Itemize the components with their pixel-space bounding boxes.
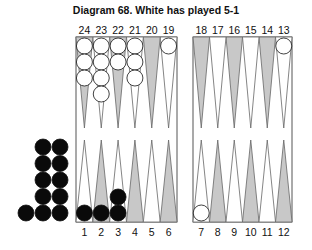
black-checker-borne-off [52, 205, 68, 221]
black-checker-point-1 [76, 205, 92, 221]
black-checker-borne-off [52, 156, 68, 172]
black-checker-point-3 [110, 189, 126, 205]
white-checker-point-13 [276, 38, 292, 54]
white-checker-point-23 [93, 54, 109, 70]
white-checker-point-22 [110, 54, 126, 70]
black-checker-point-3 [110, 205, 126, 221]
black-checker-borne-off [35, 205, 51, 221]
white-checker-point-19 [161, 38, 177, 54]
white-checker-point-23 [93, 86, 109, 102]
black-checker-borne-off [35, 139, 51, 155]
black-checker-borne-off [35, 156, 51, 172]
black-checker-borne-off [18, 205, 34, 221]
white-checker-point-24 [76, 70, 92, 86]
black-checker-borne-off [35, 172, 51, 188]
white-checker-point-24 [76, 38, 92, 54]
white-checker-point-21 [127, 70, 143, 86]
black-checker-borne-off [52, 172, 68, 188]
black-checker-borne-off [35, 189, 51, 205]
white-checker-point-21 [127, 38, 143, 54]
black-checker-borne-off [52, 189, 68, 205]
white-checker-point-24 [76, 54, 92, 70]
white-checker-point-21 [127, 54, 143, 70]
black-checker-borne-off [52, 139, 68, 155]
backgammon-board [0, 0, 312, 250]
white-checker-point-7 [193, 205, 209, 221]
right-half-board [193, 37, 292, 222]
white-checker-point-22 [110, 38, 126, 54]
black-checker-point-2 [93, 205, 109, 221]
white-checker-point-23 [93, 38, 109, 54]
white-checker-point-23 [93, 70, 109, 86]
